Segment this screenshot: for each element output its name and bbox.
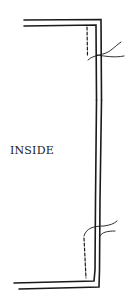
inside-label: INSIDE [10, 144, 54, 157]
top-inner-fabric-line [24, 25, 97, 100]
bottom-thread-lower [100, 231, 115, 236]
top-stitch-dashed-line [87, 27, 88, 56]
right-inner-vertical-line [14, 100, 97, 283]
right-outer-vertical-line [19, 100, 102, 289]
bottom-stitch-dashed-line [84, 238, 86, 278]
top-outer-fabric-line [24, 20, 102, 101]
top-thread-upper [88, 42, 121, 60]
